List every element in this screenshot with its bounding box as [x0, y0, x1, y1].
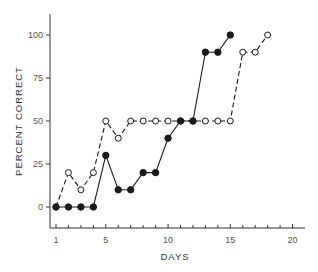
- open-circle-marker: [265, 32, 271, 38]
- series-open-circles-dashed: [53, 32, 271, 210]
- filled-circle-marker: [227, 32, 233, 38]
- open-circle-marker: [140, 118, 146, 124]
- filled-circle-marker: [165, 135, 171, 141]
- filled-circle-marker: [215, 49, 221, 55]
- filled-circle-marker: [190, 118, 196, 124]
- open-circle-marker: [65, 170, 71, 176]
- x-tick-label: 5: [103, 235, 108, 245]
- y-axis-title: PERCENT CORRECT: [13, 66, 24, 176]
- y-tick-label: 75: [33, 73, 43, 83]
- filled-circle-marker: [115, 187, 121, 193]
- x-ticks: 15101520: [53, 224, 297, 245]
- y-tick-label: 25: [33, 159, 43, 169]
- open-circle-marker: [103, 118, 109, 124]
- open-circle-marker: [78, 187, 84, 193]
- open-circle-marker: [227, 118, 233, 124]
- filled-circle-marker: [140, 169, 146, 175]
- y-axis: 0255075100: [28, 14, 50, 228]
- y-tick-label: 100: [28, 30, 43, 40]
- y-ticks: 0255075100: [28, 30, 50, 212]
- open-circle-marker: [215, 118, 221, 124]
- filled-circle-marker: [177, 118, 183, 124]
- y-tick-label: 0: [38, 202, 43, 212]
- filled-circle-marker: [53, 204, 59, 210]
- y-tick-label: 50: [33, 116, 43, 126]
- series-layer: [53, 32, 271, 210]
- line-chart: 0255075100 15101520 PERCENT CORRECT DAYS: [0, 0, 318, 272]
- x-tick-label: 15: [225, 235, 235, 245]
- filled-circle-marker: [103, 152, 109, 158]
- filled-circle-marker: [202, 49, 208, 55]
- x-axis: 15101520: [50, 224, 305, 245]
- open-circle-marker: [128, 118, 134, 124]
- open-circle-marker: [202, 118, 208, 124]
- filled-circle-marker: [78, 204, 84, 210]
- x-tick-label: 10: [163, 235, 173, 245]
- open-circle-marker: [90, 170, 96, 176]
- open-circle-marker: [240, 49, 246, 55]
- filled-circle-marker: [90, 204, 96, 210]
- x-axis-title: DAYS: [160, 251, 189, 262]
- open-circle-marker: [165, 118, 171, 124]
- filled-circle-marker: [65, 204, 71, 210]
- open-circle-marker: [115, 135, 121, 141]
- filled-circle-marker: [152, 169, 158, 175]
- series-line: [56, 35, 268, 207]
- open-circle-marker: [153, 118, 159, 124]
- open-circle-marker: [252, 49, 258, 55]
- filled-circle-marker: [128, 187, 134, 193]
- x-tick-label: 20: [288, 235, 298, 245]
- x-tick-label: 1: [53, 235, 58, 245]
